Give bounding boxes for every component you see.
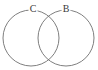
venn-diagram-figure: C B xyxy=(0,0,98,70)
circle-set-c xyxy=(3,10,59,66)
venn-diagram-canvas: C B xyxy=(0,0,98,70)
set-label-c: C xyxy=(30,3,37,14)
circle-set-b xyxy=(38,10,94,66)
set-label-b: B xyxy=(63,3,70,14)
